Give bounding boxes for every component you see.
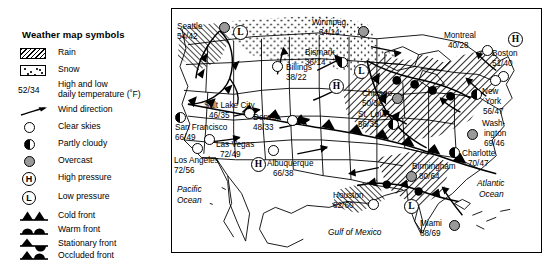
legend-item-label: Low pressure: [58, 191, 110, 201]
station-label-birmingham: Birmingham: [412, 162, 456, 171]
wind-arrow-icon: [18, 104, 52, 118]
station-label-charlotte: Charlotte: [462, 149, 495, 158]
station-label-bismark: Bismark: [305, 48, 335, 57]
station-sky-charlotte: [449, 147, 460, 158]
station-label-billings: Billings: [286, 63, 312, 72]
clear-skies-circle-icon: [18, 121, 52, 135]
station-sky-albuquerque: [268, 145, 279, 156]
legend-item-label: Overcast: [58, 155, 92, 165]
station-temp-denver: 48/33: [253, 123, 274, 132]
ocean-label-gulf-of-mexico: Gulf of Mexico: [328, 228, 382, 238]
legend-title: Weather map symbols: [22, 29, 162, 40]
legend-item-label: Wind direction: [58, 104, 112, 114]
pressure-center-low-seattle: L: [233, 25, 248, 40]
legend-item-label: Rain: [58, 47, 76, 57]
legend-item-label: Occluded front: [58, 250, 114, 260]
low-pressure-glyph: L: [22, 191, 36, 205]
legend-item-wind: Wind direction: [18, 104, 168, 118]
station-temp-las-vegas: 72/49: [220, 150, 241, 159]
station-label-los-angeles: Los Angeles: [174, 156, 219, 165]
station-temp-washington: 69/46: [484, 139, 505, 148]
cold-front-icon: [18, 210, 52, 224]
legend-item-overcast: Overcast: [18, 155, 168, 169]
station-sky-birmingham: [406, 171, 417, 182]
legend-item-rain: Rain: [18, 47, 168, 61]
station-temp-chicago: 50/36: [362, 99, 383, 108]
station-temp-newyork: 56/47: [483, 107, 504, 116]
station-label-chicago: Chicago: [362, 89, 392, 98]
station-label-boston: Boston: [492, 49, 518, 58]
warm-front-icon: [18, 224, 52, 238]
station-sky-san-francisco: [175, 112, 186, 123]
weather-map-figure: Weather map symbols Rain Snow: [0, 0, 548, 262]
station-temp-billings: 38/22: [286, 73, 307, 82]
station-label-winnipeg: Winnipeg: [312, 18, 346, 27]
legend-item-partly-cloudy: Partly cloudy: [18, 138, 168, 152]
legend-item-temperature: 52/34 High and low daily temperature (˚F…: [18, 81, 168, 101]
station-temp-los-angeles: 72/56: [174, 166, 195, 175]
station-label-seattle: Seattle: [177, 22, 203, 31]
legend-item-label: High pressure: [58, 172, 112, 182]
weather-map-frame: Seattle 54/42 Winnipeg 34/14 Montreal 40…: [171, 8, 542, 253]
station-temp-miami: 88/69: [420, 229, 441, 238]
legend-panel: Weather map symbols Rain Snow: [0, 0, 168, 262]
station-label-san-francisco: San Francisco: [175, 123, 227, 132]
station-sky-las-vegas: [204, 134, 215, 145]
station-sky-houston: [368, 199, 379, 210]
high-pressure-glyph: H: [22, 172, 36, 186]
station-sky-newyork: [490, 75, 501, 86]
ocean-label-atlantic-line2: Ocean: [479, 190, 504, 200]
station-label-las-vegas: Las Vegas: [216, 140, 254, 149]
high-pressure-icon: H: [18, 172, 52, 186]
legend-item-label: Cold front: [58, 210, 95, 220]
station-label-washington-line2: ington: [484, 129, 506, 138]
legend-item-label: High and low daily temperature (˚F): [58, 80, 141, 99]
station-temp-birmingham: 80/64: [419, 172, 440, 181]
legend-item-label: Snow: [58, 64, 80, 74]
station-label-washington-line1: Wash-: [482, 119, 505, 128]
legend-item-warm-front: Warm front: [18, 224, 168, 238]
station-label-newyork-line2: York: [485, 97, 501, 106]
station-temp-st-louis: 56/35: [358, 120, 379, 129]
pressure-center-high-boston: H: [508, 32, 523, 47]
station-label-houston: Houston: [333, 191, 364, 200]
partly-cloudy-circle-icon: [18, 138, 52, 152]
pressure-center-high-bismark: H: [329, 79, 344, 94]
station-label-st-louis: St. Louis: [358, 110, 390, 119]
station-label-miami: Miami: [420, 219, 442, 228]
station-temp-san-francisco: 66/49: [175, 133, 196, 142]
ocean-label-pacific-line2: Ocean: [177, 196, 202, 206]
station-label-montreal: Montreal: [444, 31, 476, 40]
station-temp-houston: 82/60: [333, 201, 354, 210]
station-temp-albuquerque: 66/38: [273, 169, 294, 178]
rain-hatch-swatch: [18, 47, 52, 61]
snow-dot-swatch: [18, 64, 52, 78]
occluded-front-icon: [18, 250, 52, 262]
ocean-label-pacific-line1: Pacific: [177, 185, 202, 195]
legend-item-high-pressure: H High pressure: [18, 172, 168, 186]
station-sky-bismark: [337, 57, 348, 68]
station-temp-seattle: 54/42: [177, 32, 198, 41]
station-sky-denver: [287, 115, 298, 126]
station-temp-winnipeg: 34/14: [319, 28, 340, 37]
station-temp-montreal: 40/28: [448, 41, 469, 50]
station-label-albuquerque: Albuquerque: [267, 159, 313, 168]
legend-item-label: Partly cloudy: [58, 138, 107, 148]
station-sky-miami: [449, 220, 460, 231]
legend-item-cold-front: Cold front: [18, 210, 168, 224]
station-sky-washington: [467, 129, 478, 140]
legend-item-label-line2: daily temperature (˚F): [58, 90, 141, 100]
legend-item-low-pressure: L Low pressure: [18, 191, 168, 205]
station-sky-billings: [272, 61, 283, 72]
overcast-circle-icon: [18, 155, 52, 169]
pressure-center-low-chicago: L: [354, 64, 369, 79]
ocean-label-atlantic-line1: Atlantic: [477, 179, 504, 189]
legend-item-occluded-front: Occluded front: [18, 250, 168, 262]
legend-item-label: Clear skies: [58, 121, 101, 131]
legend-item-clear-skies: Clear skies: [18, 121, 168, 135]
station-sky-los-angeles: [192, 143, 203, 154]
legend-item-label: Stationary front: [58, 238, 116, 248]
temperature-key-value: 52/34: [18, 85, 40, 95]
station-label-denver: Denver: [253, 113, 279, 122]
legend-item-label: Warm front: [58, 224, 100, 234]
